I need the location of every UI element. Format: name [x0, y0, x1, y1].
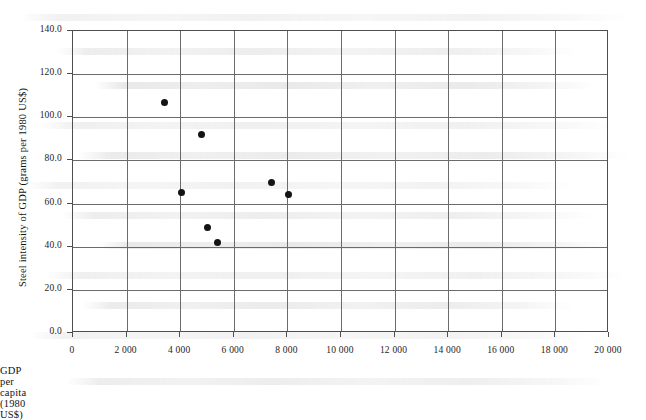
- y-tick: [67, 332, 72, 333]
- data-point: [204, 224, 211, 231]
- y-tick: [67, 116, 72, 117]
- x-tick: [447, 332, 448, 337]
- y-tick-label: 120.0: [2, 67, 62, 77]
- gridline-vertical: [555, 31, 556, 331]
- gridline-vertical: [502, 31, 503, 331]
- y-tick: [67, 159, 72, 160]
- data-point: [214, 239, 221, 246]
- gridline-horizontal: [73, 204, 607, 205]
- x-tick: [286, 332, 287, 337]
- x-tick: [233, 332, 234, 337]
- y-tick: [67, 289, 72, 290]
- gridline-horizontal: [73, 290, 607, 291]
- y-tick: [67, 73, 72, 74]
- data-point: [268, 179, 275, 186]
- x-tick: [608, 332, 609, 337]
- x-tick: [554, 332, 555, 337]
- gridline-vertical: [287, 31, 288, 331]
- y-tick-label: 60.0: [2, 197, 62, 207]
- x-tick: [501, 332, 502, 337]
- gridline-vertical: [180, 31, 181, 331]
- bleed-artifact-row: [67, 378, 608, 385]
- x-tick-label: 20 000: [568, 345, 646, 355]
- gridline-horizontal: [73, 247, 607, 248]
- y-tick: [67, 246, 72, 247]
- y-tick-label: 80.0: [2, 153, 62, 163]
- gridline-vertical: [127, 31, 128, 331]
- gridline-vertical: [341, 31, 342, 331]
- y-tick-label: 100.0: [2, 110, 62, 120]
- x-tick: [394, 332, 395, 337]
- x-tick: [126, 332, 127, 337]
- gridline-horizontal: [73, 117, 607, 118]
- data-point: [285, 191, 292, 198]
- x-tick: [340, 332, 341, 337]
- bleed-artifact-row: [30, 332, 591, 339]
- plot-frame: [72, 30, 608, 332]
- x-tick: [72, 332, 73, 337]
- y-tick-label: 140.0: [2, 24, 62, 34]
- y-tick-label: 40.0: [2, 240, 62, 250]
- gridline-horizontal: [73, 74, 607, 75]
- gridline-vertical: [234, 31, 235, 331]
- data-point: [178, 189, 185, 196]
- data-point: [161, 99, 168, 106]
- y-tick: [67, 30, 72, 31]
- data-point: [198, 131, 205, 138]
- x-tick: [179, 332, 180, 337]
- bleed-artifact-row: [20, 14, 631, 21]
- gridline-vertical: [448, 31, 449, 331]
- gridline-vertical: [395, 31, 396, 331]
- y-tick-label: 0.0: [2, 326, 62, 336]
- y-tick: [67, 203, 72, 204]
- y-tick-label: 20.0: [2, 283, 62, 293]
- gridline-horizontal: [73, 160, 607, 161]
